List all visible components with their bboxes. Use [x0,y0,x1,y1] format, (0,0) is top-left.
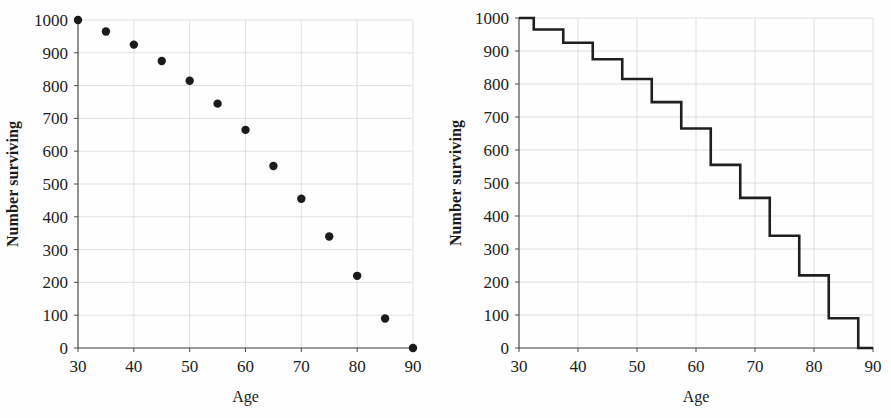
y-tick-label: 500 [43,175,69,194]
x-tick-label: 60 [688,357,705,376]
step-y-tick-labels: 01002003004005006007008009001000 [475,9,509,358]
x-tick-label: 60 [237,357,254,376]
x-tick-label: 90 [405,357,422,376]
scatter-panel: 01002003004005006007008009001000 3040506… [0,0,445,418]
scatter-axes [74,20,413,352]
data-point [158,57,166,65]
data-point [297,195,305,203]
x-tick-label: 30 [511,357,528,376]
y-tick-label: 400 [43,208,69,227]
step-panel: 01002003004005006007008009001000 3040506… [445,0,891,418]
y-tick-label: 800 [43,77,69,96]
data-point [130,40,138,48]
data-point [241,126,249,134]
y-tick-label: 200 [43,273,69,292]
y-tick-label: 0 [501,339,510,358]
y-tick-label: 1000 [475,9,509,28]
x-tick-label: 40 [570,357,587,376]
y-tick-label: 200 [484,273,510,292]
step-x-tick-labels: 30405060708090 [511,357,882,376]
scatter-plot-svg: 01002003004005006007008009001000 3040506… [0,0,445,418]
y-tick-label: 300 [484,240,510,259]
data-point [185,76,193,84]
x-tick-label: 40 [125,357,142,376]
step-plot-svg: 01002003004005006007008009001000 3040506… [445,0,891,418]
data-point [409,344,417,352]
x-tick-label: 30 [70,357,87,376]
y-tick-label: 600 [484,141,510,160]
y-tick-label: 1000 [34,11,68,30]
x-tick-label: 50 [629,357,646,376]
scatter-y-tick-labels: 01002003004005006007008009001000 [34,11,68,358]
data-point [381,314,389,322]
survivorship-figure: 01002003004005006007008009001000 3040506… [0,0,891,418]
y-tick-label: 900 [484,42,510,61]
x-tick-label: 80 [806,357,823,376]
data-point [353,272,361,280]
y-tick-label: 400 [484,207,510,226]
data-point [74,16,82,24]
x-tick-label: 70 [747,357,764,376]
y-tick-label: 100 [484,306,510,325]
x-tick-label: 70 [293,357,310,376]
y-tick-label: 300 [43,241,69,260]
y-tick-label: 600 [43,142,69,161]
data-point [325,232,333,240]
data-point [213,99,221,107]
y-tick-label: 100 [43,306,69,325]
x-tick-label: 80 [349,357,366,376]
data-point [269,162,277,170]
scatter-gridlines [78,20,413,348]
y-tick-label: 800 [484,75,510,94]
y-tick-label: 700 [43,109,69,128]
y-tick-label: 500 [484,174,510,193]
scatter-x-tick-labels: 30405060708090 [70,357,422,376]
x-tick-label: 90 [865,357,882,376]
scatter-y-axis-title: Number surviving [4,121,22,247]
y-tick-label: 700 [484,108,510,127]
step-x-axis-title: Age [683,388,710,406]
step-axes [515,18,873,352]
y-tick-label: 0 [60,339,69,358]
step-gridlines [519,18,873,348]
x-tick-label: 50 [181,357,198,376]
y-tick-label: 900 [43,44,69,63]
data-point [102,27,110,35]
scatter-x-axis-title: Age [232,388,259,406]
step-y-axis-title: Number surviving [447,120,465,246]
